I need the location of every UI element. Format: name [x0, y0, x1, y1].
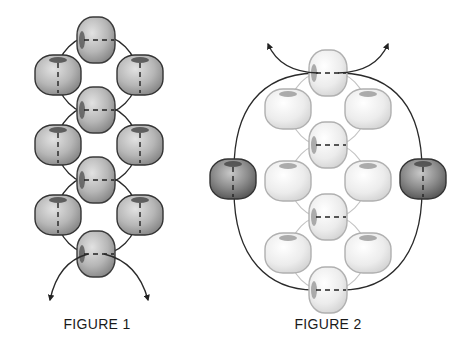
vertical-bead: [77, 231, 115, 277]
side-bead: [345, 89, 391, 129]
side-bead: [400, 159, 446, 199]
side-bead: [265, 89, 311, 129]
figure-2-outer-thread: [234, 73, 422, 290]
figure-2: [210, 44, 446, 313]
figure-1: [35, 17, 163, 300]
vertical-bead: [309, 122, 347, 168]
vertical-bead: [77, 17, 115, 63]
figure-2-caption: FIGURE 2: [295, 316, 362, 332]
side-bead: [35, 125, 81, 165]
side-bead: [117, 195, 163, 235]
side-bead: [117, 55, 163, 95]
vertical-bead: [309, 267, 347, 313]
figure-1-caption: FIGURE 1: [64, 316, 131, 332]
side-bead: [345, 233, 391, 273]
side-bead: [265, 233, 311, 273]
side-bead: [117, 125, 163, 165]
side-bead: [35, 55, 81, 95]
vertical-bead: [77, 157, 115, 203]
vertical-bead: [309, 194, 347, 240]
vertical-bead: [77, 87, 115, 133]
side-bead: [35, 195, 81, 235]
side-bead: [210, 159, 256, 199]
beading-diagram: [0, 0, 472, 348]
side-bead: [345, 161, 391, 201]
side-bead: [265, 161, 311, 201]
